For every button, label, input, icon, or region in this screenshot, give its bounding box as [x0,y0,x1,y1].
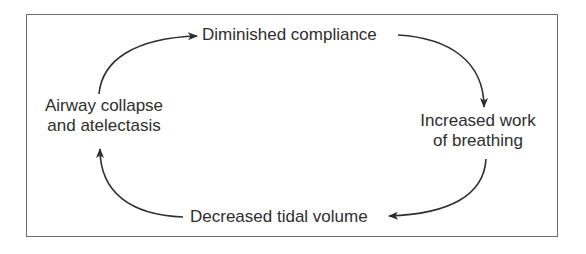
arrow-right-to-bottom [389,159,486,216]
node-label-line-1: Airway collapse [34,96,174,116]
node-decreased-tidal-volume: Decreased tidal volume [190,207,368,227]
node-diminished-compliance: Diminished compliance [202,25,377,45]
node-airway-collapse-and-atelectasis: Airway collapse and atelectasis [34,96,174,136]
node-label-line-1: Increased work [408,111,548,131]
node-label: Diminished compliance [202,25,377,45]
node-label-line-2: of breathing [408,131,548,151]
node-label-line-2: and atelectasis [34,116,174,136]
node-label: Decreased tidal volume [190,207,368,227]
node-increased-work-of-breathing: Increased work of breathing [408,111,548,151]
arrow-bottom-to-left [100,149,183,217]
arrow-top-to-right [398,35,484,107]
arrow-left-to-top [99,36,197,94]
